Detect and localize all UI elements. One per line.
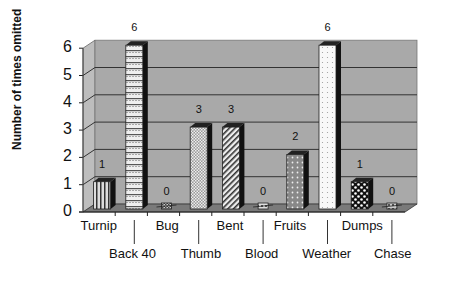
data-label: 2 [292,130,298,142]
x-category-label: Thumb [181,246,221,261]
x-category-label: Bent [217,218,244,233]
bar [126,41,148,209]
bar [94,178,116,209]
y-tick-label: 0 [52,202,72,220]
y-tick-label: 3 [52,120,72,138]
bar [319,41,341,209]
data-label: 3 [228,103,234,115]
y-tick-label: 4 [52,93,72,111]
x-category-label: Weather [302,246,351,261]
x-category-label: Blood [245,246,278,261]
bar [222,123,244,209]
data-label: 6 [131,21,137,33]
data-label: 3 [196,103,202,115]
data-label: 1 [99,158,105,170]
y-axis-label: Number of times omitted [10,9,24,150]
bar [351,178,373,209]
x-category-label: Bug [156,218,179,233]
y-tick-label: 6 [52,38,72,56]
x-category-label: Chase [374,246,412,261]
bar [190,123,212,209]
x-category-label: Dumps [342,218,383,233]
y-tick-label: 5 [52,66,72,84]
data-label: 6 [325,21,331,33]
x-category-label: Fruits [274,218,307,233]
bar-chart: Number of times omitted 0123456 TurnipBa… [0,0,461,284]
data-label: 0 [164,185,170,197]
data-label: 0 [260,185,266,197]
data-label: 0 [389,185,395,197]
x-category-label: Back 40 [109,246,156,261]
bar [287,150,309,209]
x-category-label: Turnip [81,218,117,233]
y-tick-label: 1 [52,175,72,193]
data-label: 1 [357,158,363,170]
y-tick-label: 2 [52,147,72,165]
